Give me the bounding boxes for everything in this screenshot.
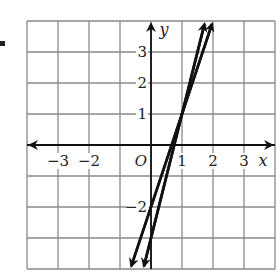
x-axis-label: x xyxy=(258,151,267,170)
x-tick-label: 2 xyxy=(208,152,218,170)
x-tick-label: 3 xyxy=(239,152,249,170)
y-tick-label: 1 xyxy=(137,105,147,123)
x-tick-label: −2 xyxy=(78,152,100,170)
x-tick-label: −3 xyxy=(47,152,69,170)
origin-label: O xyxy=(135,152,147,170)
coordinate-plane: −3−2123321−2Oxy xyxy=(0,0,280,279)
y-tick-label: 3 xyxy=(137,43,147,61)
y-tick-label: 2 xyxy=(137,74,147,92)
graph-line-arrow xyxy=(144,26,204,266)
y-axis-label: y xyxy=(158,20,169,39)
x-tick-label: 1 xyxy=(177,152,187,170)
graph-line-arrow xyxy=(131,26,211,266)
y-tick-label: −2 xyxy=(125,198,147,216)
